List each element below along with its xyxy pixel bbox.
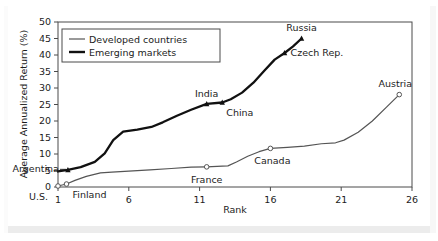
annotation-austria: Austria [378,78,412,89]
y-tick-label: 45 [39,33,51,44]
line-chart: 05101520253035404550 1611162126 U.S.Finl… [0,0,438,241]
annotation-russia: Russia [286,22,317,33]
y-tick-label: 50 [39,16,51,27]
annotation-india: India [195,88,218,99]
marker-france [204,165,209,170]
marker-austria [397,92,402,97]
x-tick-label: 16 [264,194,276,205]
legend-label-emerging: Emerging markets [89,47,176,58]
x-axis: 1611162126 [55,187,418,205]
figure-card: 05101520253035404550 1611162126 U.S.Finl… [0,0,438,241]
marker-canada [268,146,273,151]
x-tick-label: 1 [55,194,61,205]
x-tick-label: 11 [194,194,206,205]
y-axis-title: Average Annualized Return (%) [18,30,29,179]
marker-u-s- [56,184,61,189]
annotation-czech-rep-: Czech Rep. [291,47,344,58]
marker-finland [64,182,69,187]
x-tick-label: 21 [335,194,347,205]
y-tick-label: 25 [39,99,51,110]
y-tick-label: 15 [39,132,51,143]
y-tick-label: 40 [39,49,51,60]
x-tick-label: 6 [126,194,132,205]
legend-label-developed: Developed countries [89,34,187,45]
y-tick-label: 10 [39,148,51,159]
annotation-u-s-: U.S. [29,191,48,202]
y-tick-label: 35 [39,66,51,77]
annotation-finland: Finland [72,189,106,200]
annotation-china: China [226,107,253,118]
annotation-france: France [191,174,223,185]
x-tick-label: 26 [406,194,418,205]
chart-legend: Developed countries Emerging markets [62,29,220,62]
x-axis-title: Rank [223,204,247,215]
annotation-canada: Canada [254,155,290,166]
y-tick-label: 30 [39,82,51,93]
y-tick-label: 20 [39,115,51,126]
